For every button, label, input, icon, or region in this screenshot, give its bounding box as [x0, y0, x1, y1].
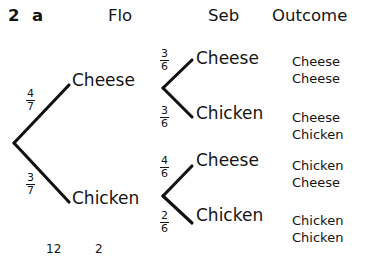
clipped-value-right: 2 — [95, 242, 103, 256]
outcome-cheese-cheese: Cheese Cheese — [292, 54, 340, 87]
fraction-denominator: 6 — [160, 223, 169, 234]
outcome-second-pick: Cheese — [292, 71, 340, 88]
fraction-denominator: 6 — [160, 118, 169, 129]
probability-cheese-to-chicken: 3 6 — [160, 105, 169, 129]
branch-root-to-cheese — [14, 85, 69, 143]
clipped-value-left: 12 — [46, 242, 61, 256]
fraction-numerator: 3 — [26, 172, 35, 183]
probability-root-to-cheese: 4 7 — [26, 88, 35, 112]
stage2-node-cheese-cheese: Cheese — [196, 50, 259, 67]
outcome-first-pick: Chicken — [292, 158, 343, 175]
outcome-first-pick: Chicken — [292, 213, 343, 230]
fraction-denominator: 7 — [26, 185, 35, 196]
fraction-numerator: 2 — [160, 210, 169, 221]
outcome-second-pick: Chicken — [292, 230, 343, 247]
outcome-chicken-chicken: Chicken Chicken — [292, 213, 343, 246]
probability-chicken-to-chicken: 2 6 — [160, 210, 169, 234]
fraction-denominator: 7 — [26, 101, 35, 112]
fraction-numerator: 3 — [160, 48, 169, 59]
probability-chicken-to-cheese: 4 6 — [160, 155, 169, 179]
fraction-numerator: 3 — [160, 105, 169, 116]
clipped-bottom-text: 12 2 — [46, 243, 103, 255]
stage2-node-chicken-cheese: Cheese — [196, 152, 259, 169]
stage2-node-chicken-chicken: Chicken — [196, 207, 263, 224]
fraction-denominator: 6 — [160, 61, 169, 72]
outcome-second-pick: Chicken — [292, 127, 343, 144]
fraction-numerator: 4 — [26, 88, 35, 99]
probability-cheese-to-cheese: 3 6 — [160, 48, 169, 72]
branch-root-to-chicken — [14, 143, 69, 202]
outcome-second-pick: Cheese — [292, 175, 343, 192]
outcome-cheese-chicken: Cheese Chicken — [292, 110, 343, 143]
outcome-first-pick: Cheese — [292, 54, 340, 71]
outcome-first-pick: Cheese — [292, 110, 343, 127]
probability-root-to-chicken: 3 7 — [26, 172, 35, 196]
fraction-numerator: 4 — [160, 155, 169, 166]
stage1-node-chicken: Chicken — [72, 190, 139, 207]
stage1-node-cheese: Cheese — [72, 72, 135, 89]
outcome-chicken-cheese: Chicken Cheese — [292, 158, 343, 191]
stage2-node-cheese-chicken: Chicken — [196, 105, 263, 122]
fraction-denominator: 6 — [160, 168, 169, 179]
